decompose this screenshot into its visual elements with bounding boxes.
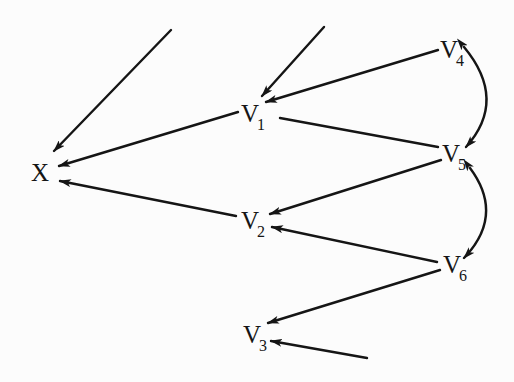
- node-v5-subscript: 5: [458, 156, 466, 173]
- edge-v1-v5-undirected: [280, 118, 438, 147]
- node-v1: V1: [241, 101, 267, 126]
- node-v3: V3: [243, 322, 269, 347]
- edge-external-to-v3: [271, 341, 367, 358]
- edge-v1-to-x: [59, 112, 238, 166]
- edge-v4-to-v1: [266, 50, 438, 102]
- edge-v5-to-v2: [270, 160, 441, 214]
- edge-external-to-v1: [262, 27, 324, 96]
- node-v4: V4: [440, 37, 466, 62]
- node-x-label: X: [31, 159, 49, 186]
- node-v2-subscript: 2: [257, 223, 265, 240]
- node-v6: V6: [443, 252, 469, 277]
- node-v4-subscript: 4: [456, 52, 464, 69]
- node-v5: V5: [442, 141, 468, 166]
- node-v2: V2: [241, 208, 267, 233]
- node-v6-subscript: 6: [459, 267, 467, 284]
- edge-v6-to-v3: [268, 270, 440, 323]
- edge-external-to-x: [54, 30, 171, 151]
- edge-v4-v5-bidirected: [464, 47, 487, 147]
- edge-v2-to-x: [60, 181, 236, 216]
- node-v3-subscript: 3: [259, 337, 267, 354]
- node-x: X: [31, 160, 49, 185]
- edge-v6-to-v2: [272, 227, 437, 262]
- node-v1-subscript: 1: [257, 116, 265, 133]
- edge-v5-v6-bidirected: [464, 168, 486, 258]
